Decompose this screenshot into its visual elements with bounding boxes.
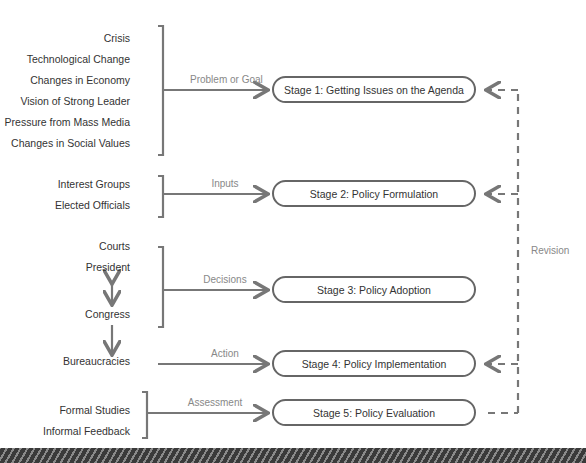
stage-5-box: Stage 5: Policy Evaluation [272,399,476,426]
flow-label-decisions: Decisions [190,274,260,285]
connector-lines [0,0,586,463]
source-label: Pressure from Mass Media [5,116,130,128]
source-label: Changes in Social Values [11,137,130,149]
stage-3-box: Stage 3: Policy Adoption [272,276,476,303]
source-label: Changes in Economy [30,74,130,86]
source-label: Informal Feedback [43,425,130,437]
source-label: Congress [85,308,130,320]
stage-1-box: Stage 1: Getting Issues on the Agenda [272,76,476,103]
stage-2-box: Stage 2: Policy Formulation [272,180,476,207]
source-label: Elected Officials [55,199,130,211]
source-label: President [86,261,130,273]
source-label: Bureaucracies [63,355,130,367]
source-label: Courts [99,240,130,252]
flow-label-action: Action [190,348,260,359]
hatched-footer-band [0,448,586,463]
source-label: Technological Change [27,53,130,65]
flow-label-problem: Problem or Goal [190,74,260,85]
source-label: Vision of Strong Leader [20,95,130,107]
flow-label-inputs: Inputs [190,178,260,189]
source-label: Formal Studies [59,404,130,416]
source-label: Interest Groups [58,178,130,190]
revision-label: Revision [531,245,569,256]
source-label: Crisis [104,32,130,44]
flow-label-assessment: Assessment [180,397,250,408]
stage-4-box: Stage 4: Policy Implementation [272,350,476,377]
